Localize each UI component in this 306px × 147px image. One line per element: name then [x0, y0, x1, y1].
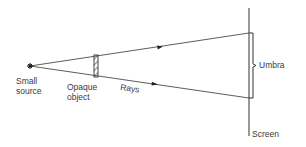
label-umbra: Umbra: [259, 60, 285, 70]
label-opaque-object: Opaque object: [67, 82, 97, 102]
label-opaque-object-line1: Opaque: [67, 82, 97, 92]
label-small-source-line1: Small: [16, 76, 42, 86]
label-screen: Screen: [252, 129, 279, 139]
opaque-object: [94, 55, 98, 77]
label-opaque-object-line2: object: [67, 92, 97, 102]
upper-ray: [30, 33, 249, 66]
lower-ray: [30, 66, 249, 98]
umbra-bracket: [249, 33, 256, 98]
diagram-canvas: [0, 0, 306, 147]
shadow-diagram: Small source Opaque object Rays Umbra Sc…: [0, 0, 306, 147]
label-small-source: Small source: [16, 76, 42, 96]
label-small-source-line2: source: [16, 86, 42, 96]
